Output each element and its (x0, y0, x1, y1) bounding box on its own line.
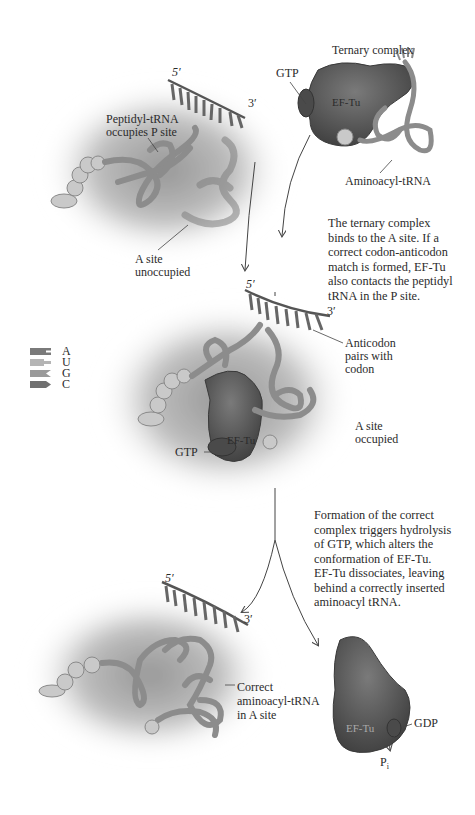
arrow-ternary-down (282, 135, 310, 236)
a-site-occupied-label: A site occupied (355, 420, 398, 446)
base-a-icon (30, 347, 52, 356)
amino-acid-ball (337, 129, 353, 145)
panel2-5prime: 5′ (246, 278, 255, 291)
ternary-complex (290, 47, 431, 173)
diagram-canvas: 5′ 3′ Peptidyl-tRNA occupies P site A si… (0, 0, 475, 815)
ternary-complex-title: Ternary complex (332, 44, 413, 57)
panel3-3prime: 3′ (244, 613, 253, 626)
pi-label: Pi (380, 756, 389, 773)
panel3-5prime: 5′ (165, 572, 174, 585)
released-ef-tu-label: EF-Tu (346, 722, 374, 735)
panel2-3prime: 3′ (327, 305, 336, 318)
step2-description: Formation of the correct complex trigger… (314, 508, 451, 610)
gtp-bulge (298, 89, 314, 117)
gdp-label: GDP (414, 717, 438, 730)
ribosome-panel-2 (100, 290, 350, 495)
panel1-3prime: 3′ (248, 97, 257, 110)
panel1-5prime: 5′ (172, 66, 181, 79)
aminoacyl-leader (380, 160, 392, 173)
peptidyl-label: Peptidyl-tRNA occupies P site (106, 113, 179, 139)
base-u-icon (30, 358, 52, 367)
released-ef-tu (333, 637, 412, 753)
a-site-unoccupied-label: A site unoccupied (135, 253, 190, 279)
arrow-to-panel3 (242, 488, 275, 612)
panel2-ef-tu-label: EF-Tu (227, 434, 255, 447)
base-c-icon (30, 380, 52, 389)
step1-description: The ternary complex binds to the A site.… (328, 216, 453, 303)
base-g-icon (30, 369, 52, 378)
arrow-to-released (275, 540, 318, 645)
aminoacyl-trna-label: Aminoacyl-tRNA (345, 175, 431, 188)
panel2-gtp-label: GTP (175, 446, 198, 459)
ternary-ef-tu-label: EF-Tu (332, 96, 360, 109)
ternary-gtp-label: GTP (276, 67, 299, 80)
gdp-bulge (387, 719, 401, 737)
amino-acid-ball (263, 435, 277, 449)
amino-acid-ball (145, 720, 159, 734)
base-legend: A U G C (30, 347, 75, 391)
anticodon-label: Anticodon pairs with codon (345, 337, 396, 376)
correct-aminoacyl-label: Correct aminoacyl-tRNA in A site (237, 680, 320, 722)
ribosome-panel-3 (30, 582, 270, 755)
legend-item-c: C (30, 380, 75, 391)
